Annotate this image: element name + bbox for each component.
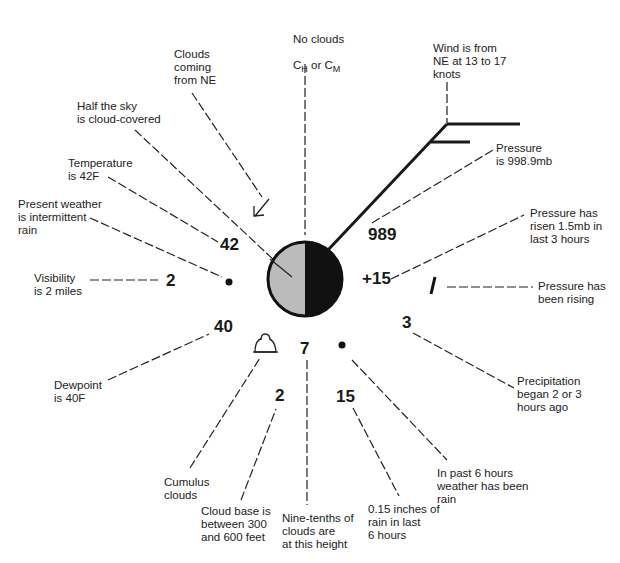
visibility-value: 2 [166, 272, 175, 290]
past-weather-rain-icon [339, 342, 346, 349]
cloud-base-value: 2 [275, 387, 284, 405]
no-clouds-label: No clouds CH or CM [293, 20, 344, 76]
nine-tenths-label: Nine-tenths of clouds are at this height [282, 512, 354, 551]
cumulus-cloud-icon [253, 334, 278, 352]
pressure-risen-label: Pressure has risen 1.5mb in last 3 hours [530, 207, 602, 246]
dewpoint-value: 40 [214, 318, 233, 336]
present-weather-label: Present weather is intermittent rain [18, 198, 102, 237]
rain-amount-label: 0.15 inches of rain in last 6 hours [368, 503, 440, 542]
pressure-rising-label: Pressure has been rising [538, 280, 606, 306]
pressure-change-value: +15 [362, 270, 391, 288]
half-sky-label: Half the sky is cloud-covered [77, 100, 161, 126]
pressure-value: 989 [368, 226, 396, 244]
low-cloud-amount-value: 7 [300, 340, 309, 358]
temperature-value: 42 [220, 236, 239, 254]
pressure-tendency-icon [431, 277, 435, 294]
pressure-label: Pressure is 998.9mb [496, 142, 552, 168]
station-circle-icon [268, 242, 342, 316]
precip-time-value: 3 [402, 314, 411, 332]
wind-label: Wind is from NE at 13 to 17 knots [433, 42, 507, 81]
dewpoint-label: Dewpoint is 40F [54, 379, 102, 405]
cumulus-label: Cumulus clouds [164, 476, 209, 502]
cloud-base-label: Cloud base is between 300 and 600 feet [201, 505, 271, 544]
temperature-label: Temperature is 42F [68, 157, 133, 183]
visibility-label: Visibility is 2 miles [34, 272, 82, 298]
precip-began-label: Precipitation began 2 or 3 hours ago [517, 375, 582, 414]
present-weather-rain-icon [226, 279, 233, 286]
clouds-coming-label: Clouds coming from NE [174, 48, 216, 87]
precip-amount-value: 15 [336, 388, 355, 406]
past-weather-label: In past 6 hours weather has been rain [437, 467, 528, 506]
cloud-direction-arrow-icon [254, 199, 269, 216]
